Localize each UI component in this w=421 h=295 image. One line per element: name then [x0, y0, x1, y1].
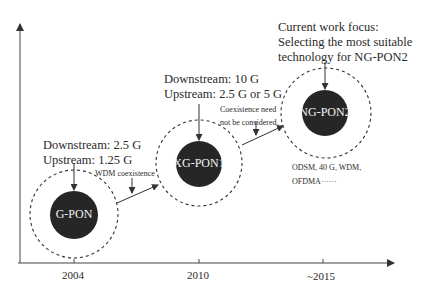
- coexistence-note-line2: not be considered.: [220, 117, 278, 129]
- xgpon1-downstream: Downstream: 10 G: [164, 72, 259, 87]
- ngpon2-focus-line1: Current work focus:: [278, 20, 379, 35]
- wdm-coexistence-note: WDM coexistence: [95, 168, 155, 180]
- gpon-label: G-PON: [39, 207, 109, 222]
- ngpon2-candidates-line1: ODSM, 40 G, WDM,: [292, 162, 361, 174]
- gpon-upstream: Upstream: 1.25 G: [43, 153, 132, 168]
- ngpon2-focus-line2: Selecting the most suitable: [278, 35, 412, 50]
- tick-label-2015: ~2015: [307, 270, 335, 282]
- tick-label-2004: 2004: [62, 269, 84, 281]
- tick-label-2010: 2010: [187, 269, 209, 281]
- xgpon1-upstream: Upstream: 2.5 G or 5 G: [164, 87, 282, 102]
- transition-arrow-gpon-xgpon1: [117, 185, 158, 203]
- gpon-downstream: Downstream: 2.5 G: [43, 138, 141, 153]
- ngpon2-label: NG-PON2: [290, 105, 360, 120]
- ngpon2-candidates-line2: OFDMA······: [292, 176, 337, 188]
- ngpon2-focus-line3: technology for NG-PON2: [278, 50, 408, 65]
- coexistence-note-line1: Coexistence need: [220, 104, 276, 116]
- xgpon1-label: XG-PON1: [164, 156, 234, 171]
